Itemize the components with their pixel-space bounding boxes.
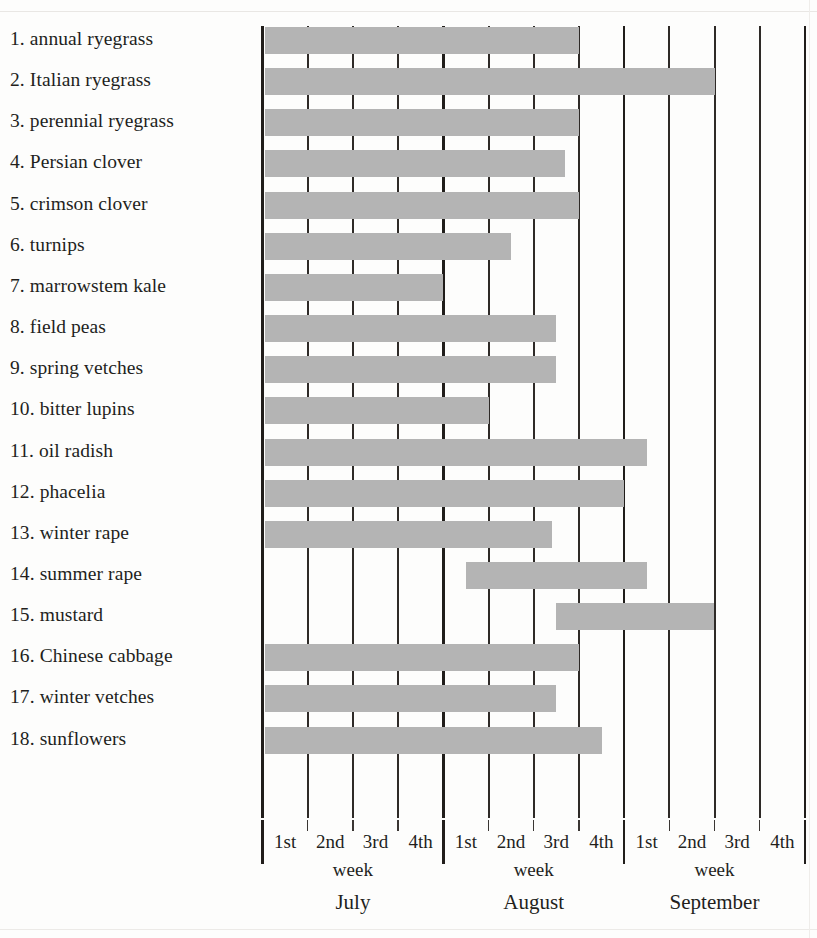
week-tick <box>669 820 671 831</box>
week-gridline <box>759 26 761 818</box>
week-tick <box>759 820 761 831</box>
week-label: 4th <box>398 832 443 851</box>
sowing-period-bar <box>265 315 556 342</box>
month-label: September <box>624 892 805 913</box>
week-word: week <box>443 860 624 879</box>
week-label: 2nd <box>669 832 714 851</box>
sowing-period-bar <box>265 480 624 507</box>
week-label: 3rd <box>353 832 398 851</box>
month-label: August <box>443 892 624 913</box>
week-tick <box>397 820 399 831</box>
week-label: 2nd <box>489 832 534 851</box>
sowing-period-bar <box>265 274 443 301</box>
gantt-plot-area <box>0 0 817 820</box>
sowing-period-bar <box>265 233 511 260</box>
week-word: week <box>624 860 805 879</box>
week-label: 3rd <box>715 832 760 851</box>
month-gridline <box>261 26 264 818</box>
sowing-period-bar <box>265 439 647 466</box>
sowing-period-bar <box>265 150 565 177</box>
sowing-period-bar <box>265 109 579 136</box>
week-label: 1st <box>624 832 669 851</box>
week-tick <box>578 820 580 831</box>
week-label: 1st <box>263 832 308 851</box>
week-tick <box>533 820 535 831</box>
month-gridline <box>623 26 626 818</box>
sowing-period-bar <box>265 397 489 424</box>
sowing-period-bar <box>265 521 552 548</box>
week-tick <box>307 820 309 831</box>
sowing-period-bar <box>265 685 556 712</box>
month-gridline <box>804 26 807 818</box>
week-word: week <box>263 860 444 879</box>
sowing-period-bar <box>556 603 714 630</box>
week-tick <box>352 820 354 831</box>
week-gridline <box>578 26 580 818</box>
chart-page: 1. annual ryegrass2. Italian ryegrass3. … <box>0 0 817 938</box>
month-label: July <box>263 892 444 913</box>
week-label: 2nd <box>308 832 353 851</box>
sowing-period-bar <box>265 356 556 383</box>
sowing-period-bar <box>265 644 579 671</box>
week-gridline <box>668 26 670 818</box>
week-label: 3rd <box>534 832 579 851</box>
sowing-period-bar <box>265 192 579 219</box>
week-tick <box>714 820 716 831</box>
week-label: 1st <box>443 832 488 851</box>
sowing-period-bar <box>265 68 715 95</box>
sowing-period-bar <box>265 27 579 54</box>
sowing-period-bar <box>466 562 647 589</box>
sowing-period-bar <box>265 727 602 754</box>
week-tick <box>488 820 490 831</box>
week-label: 4th <box>760 832 805 851</box>
week-gridline <box>714 26 716 818</box>
time-axis: 1st2nd3rd4th1st2nd3rd4th1st2nd3rd4thweek… <box>0 820 817 938</box>
week-label: 4th <box>579 832 624 851</box>
